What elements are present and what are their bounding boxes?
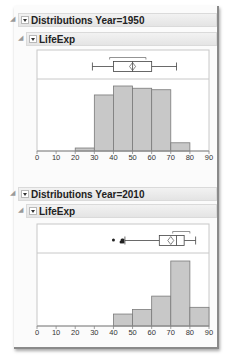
outlier-point <box>112 239 115 242</box>
x-tick-label: 60 <box>147 328 155 337</box>
histogram-bar <box>133 88 152 151</box>
x-tick-label: 90 <box>205 153 213 162</box>
x-tick-label: 50 <box>128 328 136 337</box>
histogram-bar <box>113 314 132 326</box>
histogram-bar <box>133 310 152 326</box>
x-tick-label: 20 <box>71 153 79 162</box>
box <box>159 236 184 246</box>
x-tick-label: 90 <box>205 328 213 337</box>
x-tick-label: 10 <box>52 328 60 337</box>
charts-canvas: 01020304050607080900102030405060708090 <box>0 0 233 360</box>
histogram-bar <box>152 296 171 326</box>
histogram-bar <box>171 143 190 151</box>
outlier-point <box>122 239 125 242</box>
x-tick-label: 20 <box>71 328 79 337</box>
x-tick-label: 40 <box>109 153 117 162</box>
x-tick-label: 70 <box>167 153 175 162</box>
x-tick-label: 0 <box>35 328 39 337</box>
x-tick-label: 80 <box>186 153 194 162</box>
x-tick-label: 40 <box>109 328 117 337</box>
histogram-bar <box>94 95 113 151</box>
x-tick-label: 10 <box>52 153 60 162</box>
histogram-bar <box>190 307 209 326</box>
x-tick-label: 70 <box>167 328 175 337</box>
x-tick-label: 30 <box>90 153 98 162</box>
x-tick-label: 0 <box>35 153 39 162</box>
x-tick-label: 30 <box>90 328 98 337</box>
histogram-bar <box>113 86 132 151</box>
histogram-bar <box>152 90 171 151</box>
x-tick-label: 60 <box>147 153 155 162</box>
x-tick-label: 80 <box>186 328 194 337</box>
x-tick-label: 50 <box>128 153 136 162</box>
histogram-bar <box>171 261 190 326</box>
